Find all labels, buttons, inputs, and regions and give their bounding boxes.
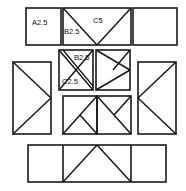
diagram-root: A2.5 C5 B2.5 B2.5 C2.5 <box>0 0 186 191</box>
panel-right-tall-upper-diagonal <box>138 62 176 98</box>
panel-bottom-peak-left <box>63 145 97 182</box>
panel-right-chevron-upper <box>96 50 130 70</box>
panel-left-tall-lower-diagonal <box>13 98 51 134</box>
label-a25: A2.5 <box>32 19 47 27</box>
panel-right-chevron-lower <box>96 70 130 90</box>
panel-bottom-bar-outline <box>28 145 166 182</box>
panel-right-tall-lower-diagonal <box>138 98 176 134</box>
panel-left-tall-outline <box>13 62 51 134</box>
panel-c5-diagonal-right <box>97 8 131 45</box>
label-c5: C5 <box>93 17 103 25</box>
panel-center-right-branch-diagonal <box>114 96 131 115</box>
panel-bottom-peak-right <box>97 145 131 182</box>
panel-center-left-branch-diagonal <box>80 115 97 134</box>
label-b25-mid: B2.5 <box>74 54 89 62</box>
layout-diagram-canvas <box>0 0 186 191</box>
label-b25-top: B2.5 <box>64 28 79 36</box>
label-c25: C2.5 <box>62 78 78 86</box>
panel-right-chevron-top-edge-diagonal <box>113 50 130 70</box>
panel-right-tall-outline <box>138 62 176 134</box>
panel-left-tall-upper-diagonal <box>13 62 51 98</box>
panel-top-right-outline <box>133 8 177 45</box>
